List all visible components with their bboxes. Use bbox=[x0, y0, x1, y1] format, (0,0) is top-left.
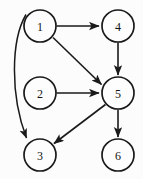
node-6-label: 6 bbox=[115, 149, 121, 163]
node-1-label: 1 bbox=[37, 20, 43, 34]
edge-1-to-5 bbox=[53, 38, 102, 85]
node-3[interactable]: 3 bbox=[24, 139, 56, 171]
graph-canvas: 1 2 3 4 5 6 bbox=[0, 0, 143, 179]
node-4-label: 4 bbox=[115, 20, 121, 34]
node-2[interactable]: 2 bbox=[24, 77, 56, 109]
node-4[interactable]: 4 bbox=[102, 10, 134, 42]
node-2-label: 2 bbox=[37, 87, 43, 101]
node-6[interactable]: 6 bbox=[102, 139, 134, 171]
node-layer: 1 2 3 4 5 6 bbox=[24, 10, 134, 171]
node-3-label: 3 bbox=[37, 149, 43, 163]
graph-diagram: 1 2 3 4 5 6 bbox=[0, 0, 143, 179]
node-5-label: 5 bbox=[115, 87, 121, 101]
node-1[interactable]: 1 bbox=[24, 10, 56, 42]
edge-5-to-3 bbox=[54, 105, 106, 144]
node-5[interactable]: 5 bbox=[102, 77, 134, 109]
